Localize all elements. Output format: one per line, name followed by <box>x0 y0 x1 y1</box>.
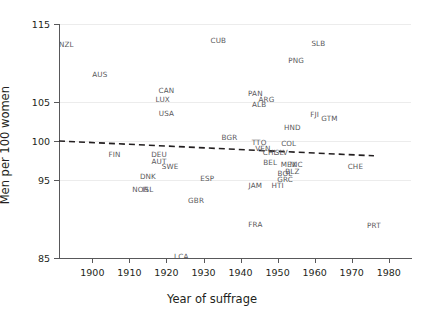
data-point-label: DNK <box>140 172 156 181</box>
scatter-plot: NZLAUSCUBSLBPNGCANLUXUSAPANARGALBFJIGTMH… <box>0 0 424 319</box>
y-tick-label: 115 <box>0 19 50 30</box>
data-point-label: USA <box>159 108 174 117</box>
y-tick <box>54 258 59 259</box>
data-point-label: ALB <box>252 100 266 109</box>
data-point-label: PNG <box>288 55 304 64</box>
data-point-label: GTM <box>321 114 337 123</box>
data-point-label: PRT <box>367 221 381 230</box>
data-point-label: GBR <box>188 195 204 204</box>
y-tick-label: 85 <box>0 253 50 264</box>
x-tick-label: 1980 <box>377 267 401 278</box>
data-point-label: BEL <box>263 158 277 167</box>
x-tick <box>129 258 130 263</box>
x-tick <box>204 258 205 263</box>
data-point-label: AUS <box>92 69 107 78</box>
data-point-label: FJI <box>310 109 319 118</box>
x-tick-label: 1900 <box>80 267 104 278</box>
x-tick <box>166 258 167 263</box>
data-point-label: HTI <box>271 181 283 190</box>
y-axis-title: Men per 100 women <box>0 86 12 204</box>
data-point-label: SLB <box>311 38 325 47</box>
x-tick <box>352 258 353 263</box>
data-point-label: FIN <box>109 150 121 159</box>
x-tick <box>278 258 279 263</box>
x-tick-label: 1920 <box>154 267 178 278</box>
data-point-label: ISL <box>142 185 153 194</box>
data-point-label: NZL <box>59 40 74 49</box>
plot-area: NZLAUSCUBSLBPNGCANLUXUSAPANARGALBFJIGTMH… <box>59 24 411 258</box>
x-tick-label: 1950 <box>266 267 290 278</box>
data-point-label: BGR <box>222 133 238 142</box>
data-point-label: LCA <box>174 252 188 261</box>
data-point-label: FRA <box>248 220 262 229</box>
x-tick-label: 1940 <box>228 267 252 278</box>
data-point-label: ESP <box>200 173 214 182</box>
x-tick <box>241 258 242 263</box>
x-tick-label: 1960 <box>303 267 327 278</box>
x-axis-title: Year of suffrage <box>0 292 424 306</box>
x-tick <box>389 258 390 263</box>
x-tick-label: 1930 <box>191 267 215 278</box>
data-point-label: SWE <box>162 161 179 170</box>
data-point-label: CUB <box>210 35 226 44</box>
x-tick-label: 1970 <box>340 267 364 278</box>
x-tick <box>92 258 93 263</box>
data-point-label: SLV <box>275 147 288 156</box>
data-point-label: CHE <box>348 161 363 170</box>
data-point-label: LUX <box>156 94 170 103</box>
x-tick-label: 1910 <box>117 267 141 278</box>
data-point-label: JAM <box>249 181 263 190</box>
data-point-label: HND <box>284 122 301 131</box>
x-tick <box>315 258 316 263</box>
x-axis-line <box>59 258 412 259</box>
data-point-label: CAN <box>159 85 175 94</box>
